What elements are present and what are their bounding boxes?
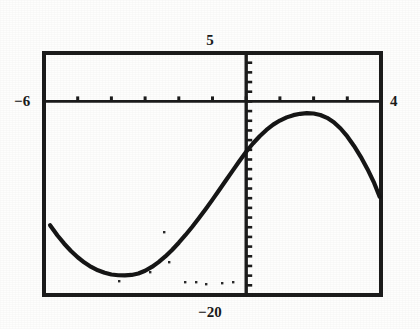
plot-area [42, 51, 383, 297]
speckle [149, 271, 151, 273]
graphing-calculator-screenshot: 5 −6 4 −20 [0, 0, 420, 329]
y-min-label: −20 [0, 305, 420, 320]
graph-canvas [42, 51, 383, 297]
y-max-label: 5 [0, 33, 420, 48]
speckle [195, 281, 197, 283]
x-max-label: 4 [390, 94, 398, 109]
x-min-label: −6 [14, 94, 30, 109]
speckle [168, 261, 170, 263]
speckle [118, 280, 120, 282]
curve-path [50, 113, 380, 275]
speckle [232, 281, 234, 283]
x-axis [44, 96, 381, 101]
speckle [184, 281, 186, 283]
function-curve [50, 113, 380, 275]
plot-border [44, 53, 381, 295]
frame-rectangle [44, 53, 381, 295]
speckle [221, 282, 223, 284]
y-axis [246, 53, 252, 295]
speckle [163, 231, 165, 233]
speckle [205, 283, 207, 285]
scan-speckles [118, 231, 234, 285]
